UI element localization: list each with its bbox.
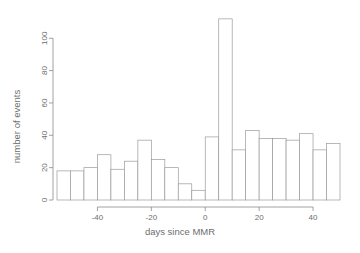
- histogram-bar: [313, 150, 326, 200]
- histogram-bar: [165, 168, 178, 200]
- y-axis-tick-label: 20: [40, 163, 49, 172]
- x-axis-title: days since MMR: [0, 226, 360, 237]
- y-axis-tick-label: 40: [40, 130, 49, 139]
- y-axis-tick-label: 80: [40, 66, 49, 75]
- y-axis-tick-label: 0: [40, 197, 49, 202]
- histogram-bar: [219, 19, 232, 200]
- histogram-bar: [84, 168, 97, 200]
- histogram-bar: [286, 140, 299, 200]
- histogram-bar: [259, 139, 272, 200]
- histogram-bar: [327, 143, 340, 200]
- histogram-bar: [178, 184, 191, 200]
- y-axis-tick-label: 60: [40, 98, 49, 107]
- x-axis-tick-label: -40: [92, 213, 104, 222]
- x-axis-tick-label: 40: [309, 213, 318, 222]
- histogram-bar: [232, 150, 245, 200]
- histogram-bar: [300, 134, 313, 200]
- chart-canvas: 020406080100-40-2002040: [0, 0, 360, 253]
- histogram-bar: [57, 171, 70, 200]
- histogram-bar: [273, 139, 286, 200]
- histogram-bar: [205, 137, 218, 200]
- y-axis-title: number of events: [12, 90, 23, 163]
- x-axis-tick-label: -20: [146, 213, 158, 222]
- histogram-bar: [192, 190, 205, 200]
- y-axis-tick-label: 100: [40, 31, 49, 45]
- histogram-bar: [138, 140, 151, 200]
- x-axis-tick-label: 20: [255, 213, 264, 222]
- histogram-bar: [124, 161, 137, 200]
- histogram-bar: [70, 171, 83, 200]
- histogram-bar: [246, 130, 259, 200]
- histogram-bar: [97, 155, 110, 200]
- histogram-bar: [151, 160, 164, 200]
- histogram-plot: 020406080100-40-2002040 number of events…: [0, 0, 360, 253]
- x-axis-tick-label: 0: [203, 213, 208, 222]
- bars-group: [57, 19, 340, 200]
- y-axis-title-wrap: number of events: [9, 0, 25, 253]
- histogram-bar: [111, 169, 124, 200]
